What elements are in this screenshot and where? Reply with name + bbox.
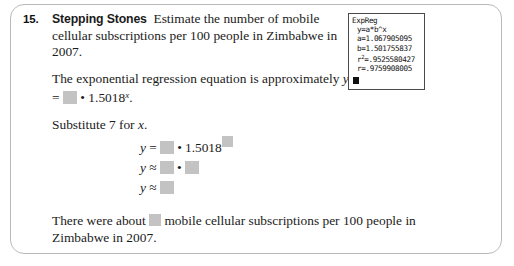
answer-blank-eq1-exponent[interactable] [222, 136, 233, 147]
equation-line-2: y ≈ • [140, 158, 310, 178]
equation-3-relation: ≈ [149, 180, 156, 195]
exercise-number: 15. [23, 13, 38, 25]
conclusion-statement: There were about mobile cellular subscri… [52, 213, 472, 246]
regression-statement: The exponential regression equation is a… [52, 71, 352, 107]
conclusion-block: There were about mobile cellular subscri… [52, 213, 472, 246]
equation-3-variable: y [140, 180, 146, 195]
regression-dot: • [80, 90, 85, 105]
answer-blank-eq1-coefficient[interactable] [160, 141, 174, 154]
equation-1-base: 1.5018 [185, 140, 222, 155]
equation-2-relation: ≈ [149, 160, 156, 175]
calculator-output: ExpReg y=a*b^x a=1.067905095 b=1.5017558… [349, 14, 424, 73]
exercise-page: 15. Stepping Stones Estimate the number … [0, 0, 514, 266]
answer-blank-eq3-result[interactable] [160, 181, 174, 194]
calculator-r2-line: r2=.9525580427 [352, 53, 424, 64]
calculator-b-line: b=1.501755837 [352, 44, 424, 53]
substitute-suffix: . [144, 117, 147, 132]
equation-2-variable: y [140, 160, 146, 175]
calculator-r-value: .9759908005 [365, 64, 411, 73]
calculator-a-value: 1.067905095 [365, 34, 411, 43]
equation-line-3: y ≈ [140, 178, 310, 198]
equation-line-1: y = •1.5018 [140, 136, 310, 158]
regression-period: . [129, 90, 132, 105]
answer-blank-coefficient[interactable] [63, 91, 77, 104]
regression-equals: = [52, 90, 60, 105]
answer-blank-eq2-right[interactable] [185, 161, 199, 174]
calculator-title: ExpReg [352, 16, 424, 25]
substitute-prefix: Substitute 7 for [52, 117, 138, 132]
substitute-instruction: Substitute 7 for x. [52, 117, 352, 134]
equation-2-operator: • [174, 160, 185, 175]
calculator-model-line: y=a*b^x [352, 25, 424, 34]
problem-statement: Stepping Stones Estimate the number of m… [52, 11, 352, 61]
calculator-cursor-block [353, 77, 359, 84]
equation-1-relation: = [149, 140, 157, 155]
calculator-r2-value: .9525580427 [369, 54, 415, 63]
calculator-a-line: a=1.067905095 [352, 34, 424, 43]
conclusion-prefix: There were about [52, 213, 146, 228]
regression-base: 1.5018 [88, 90, 125, 105]
answer-blank-eq2-left[interactable] [160, 161, 174, 174]
regression-intro: The exponential regression equation is a… [52, 71, 339, 86]
problem-lead-in: Stepping Stones [52, 12, 147, 26]
calculator-b-value: 1.501755837 [365, 44, 411, 53]
exercise-body: Stepping Stones Estimate the number of m… [52, 11, 352, 134]
equation-1-variable: y [140, 140, 146, 155]
answer-blank-conclusion[interactable] [149, 214, 161, 226]
graphing-calculator-screen: ExpReg y=a*b^x a=1.067905095 b=1.5017558… [348, 13, 425, 90]
equation-1-operator: • [174, 140, 185, 155]
calculator-r-line: r=.9759908005 [352, 64, 424, 73]
worked-equations: y = •1.5018 y ≈ • y ≈ [140, 136, 310, 198]
